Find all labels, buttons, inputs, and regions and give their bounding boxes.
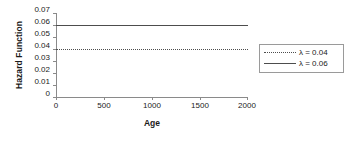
y-tick-label: 0.04 [22, 41, 50, 50]
y-axis-tick [53, 13, 56, 14]
x-tick-label: 500 [84, 101, 124, 111]
y-axis-tick [53, 73, 56, 74]
legend-item-label: λ = 0.04 [297, 47, 328, 58]
plot-area [56, 13, 248, 97]
x-tick-label: 0 [36, 101, 76, 111]
y-tick-label: 0 [22, 89, 50, 98]
series-line-lambda-006 [56, 25, 248, 26]
x-tick-label: 1000 [132, 101, 172, 111]
x-axis-title: Age [56, 118, 248, 128]
legend-item: λ = 0.04 [263, 47, 340, 58]
hazard-function-chart: Hazard Function 0.07 0.06 0.05 0.04 0.03… [0, 0, 348, 142]
y-tick-label: 0.05 [22, 29, 50, 38]
x-tick-label: 1500 [180, 101, 220, 111]
legend-line-sample-solid-icon [263, 58, 297, 69]
y-axis-tick [53, 37, 56, 38]
y-tick-label: 0.06 [22, 17, 50, 26]
y-tick-label: 0.02 [22, 65, 50, 74]
y-axis-tick [53, 85, 56, 86]
x-axis-tick [247, 97, 248, 100]
y-axis-tick-labels: 0.07 0.06 0.05 0.04 0.03 0.02 0.01 0 [22, 9, 50, 97]
x-axis-tick-labels: 0 500 1000 1500 2000 [56, 101, 248, 113]
y-tick-label: 0.07 [22, 5, 50, 14]
x-axis-tick [56, 97, 57, 100]
series-line-lambda-004 [56, 49, 248, 50]
y-tick-label: 0.03 [22, 53, 50, 62]
x-tick-label: 2000 [227, 101, 267, 111]
x-axis-tick [200, 97, 201, 100]
legend-item-label: λ = 0.06 [297, 58, 328, 69]
x-axis-tick [104, 97, 105, 100]
chart-legend: λ = 0.04 λ = 0.06 [259, 44, 344, 73]
legend-line-sample-dotted-icon [263, 47, 297, 58]
y-tick-label: 0.01 [22, 77, 50, 86]
y-axis-tick [53, 61, 56, 62]
legend-item: λ = 0.06 [263, 58, 340, 69]
x-axis-tick [152, 97, 153, 100]
